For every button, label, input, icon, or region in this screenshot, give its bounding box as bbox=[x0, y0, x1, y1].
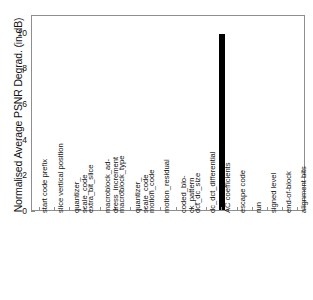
x-tick-label: escape code bbox=[239, 170, 247, 213]
x-tick-label: start code prefix bbox=[41, 159, 49, 213]
x-tick-label: motion_code bbox=[148, 170, 156, 213]
y-tick-label: 0 bbox=[5, 206, 27, 216]
x-tick-mark bbox=[176, 207, 177, 211]
x-tick-label: macroblock_type bbox=[118, 156, 126, 213]
x-tick-label: run bbox=[255, 202, 263, 213]
x-tick-mark bbox=[69, 207, 70, 211]
x-tick-mark bbox=[206, 207, 207, 211]
x-tick-mark bbox=[54, 207, 55, 211]
x-tick-label: slice vertical position bbox=[57, 143, 65, 213]
x-tick-label: motion_residual bbox=[163, 159, 171, 213]
chart-figure: Normalised Average PSNR Degrad. (in dB) … bbox=[0, 0, 313, 300]
y-tick-label: 4 bbox=[5, 135, 27, 145]
x-tick-mark bbox=[252, 207, 253, 211]
x-tick-mark bbox=[282, 207, 283, 211]
y-tick-label: 8 bbox=[5, 63, 27, 73]
x-tick-mark bbox=[267, 207, 268, 211]
x-tick-label: end-of-block bbox=[285, 171, 293, 213]
y-tick-mark bbox=[31, 211, 35, 212]
x-tick-mark bbox=[130, 207, 131, 211]
x-tick-label: alignment bits bbox=[300, 166, 308, 213]
x-tick-label: dc_dct_differential bbox=[209, 152, 217, 214]
x-tick-label: AC coefficients bbox=[224, 162, 232, 213]
x-tick-label: extra_bit_slice bbox=[87, 164, 95, 213]
x-tick-label: dct_dc_size bbox=[194, 173, 202, 213]
y-tick-label: 6 bbox=[5, 99, 27, 109]
x-tick-mark bbox=[100, 207, 101, 211]
y-tick-label: 10 bbox=[5, 28, 27, 38]
y-tick-label: 2 bbox=[5, 170, 27, 180]
x-tick-label: signed level bbox=[270, 173, 278, 213]
